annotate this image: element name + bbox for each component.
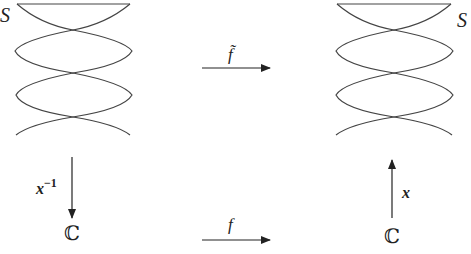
- commutative-diagram: S S f̃ x−1 ℂ f x ℂ: [0, 0, 471, 254]
- helix-surface-left: [15, 4, 132, 135]
- node-label-top-left: S: [0, 4, 10, 26]
- arrow-label-left: x−1: [35, 176, 57, 197]
- helix-surface-right: [336, 4, 453, 135]
- arrow-label-bottom: f: [228, 215, 235, 234]
- node-label-bottom-left: ℂ: [64, 222, 80, 244]
- node-label-top-right: S: [457, 9, 467, 31]
- node-label-bottom-right: ℂ: [384, 225, 400, 247]
- arrow-label-right: x: [401, 184, 410, 201]
- arrow-label-top: f̃: [228, 45, 237, 64]
